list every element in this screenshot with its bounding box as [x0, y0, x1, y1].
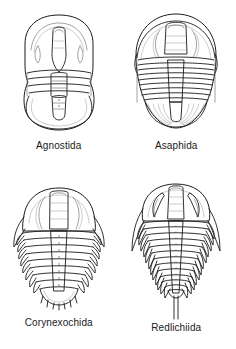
corynexochida-illustration	[7, 183, 111, 313]
label-agnostida: Agnostida	[36, 141, 81, 151]
label-redlichiida: Redlichiida	[151, 323, 201, 333]
label-corynexochida: Corynexochida	[25, 318, 93, 328]
panel-corynexochida: Corynexochida	[0, 175, 118, 349]
trilobite-figure-plate: Agnostida	[0, 0, 235, 349]
agnostida-illustration	[11, 10, 107, 134]
label-asaphida: Asaphida	[155, 141, 198, 151]
panel-redlichiida: Redlichiida	[118, 175, 236, 349]
panel-agnostida: Agnostida	[0, 0, 118, 175]
panel-asaphida: Asaphida	[118, 0, 236, 175]
redlichiida-illustration	[124, 179, 228, 321]
asaphida-illustration	[126, 10, 226, 134]
